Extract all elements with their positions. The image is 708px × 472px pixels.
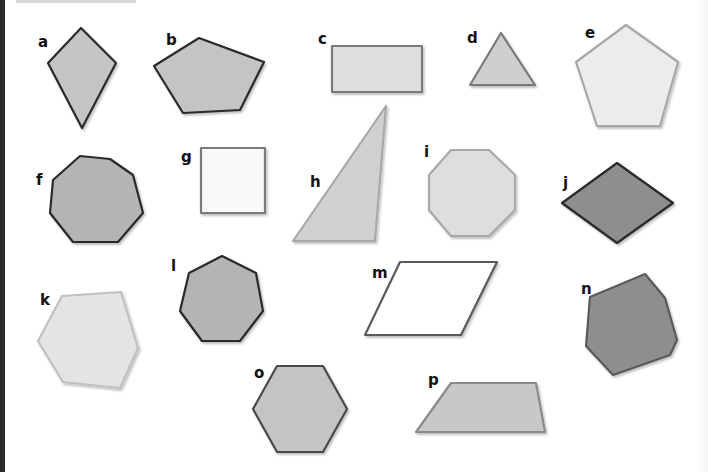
shapes-canvas: abcdefghijklmnop [0, 0, 708, 472]
trapezium-polygon [416, 383, 545, 432]
shape-d-triangle: d [467, 29, 535, 85]
shape-k-irregular-hexagon: k [38, 291, 138, 388]
shape-label: l [171, 257, 176, 275]
irregular-heptagon-polygon [50, 156, 143, 242]
shape-a-kite: a [38, 28, 116, 128]
irregular-pentagon-polygon [154, 38, 264, 113]
shape-n-irregular-heptagon: n [581, 274, 677, 375]
regular-hexagon-polygon [253, 366, 347, 452]
shape-c-rectangle: c [318, 30, 422, 92]
shape-j-rhombus: j [562, 163, 673, 243]
irregular-hexagon-polygon [38, 292, 138, 388]
rhombus-polygon [562, 163, 673, 243]
octagon-polygon [429, 150, 515, 236]
shape-label: d [467, 29, 478, 47]
shape-g-square: g [181, 148, 265, 213]
shape-label: h [310, 173, 321, 191]
rectangle-polygon [332, 46, 422, 92]
shape-label: n [581, 280, 592, 298]
shape-i-octagon: i [424, 143, 515, 236]
shape-label: a [38, 33, 48, 51]
shape-label: g [181, 148, 192, 166]
shape-label: b [166, 31, 177, 49]
shape-label: e [585, 24, 595, 42]
shape-label: p [428, 371, 439, 389]
shape-m-parallelogram: m [365, 262, 497, 335]
kite-polygon [48, 28, 116, 128]
shape-b-irregular-pentagon: b [154, 31, 264, 113]
shape-e-regular-pentagon: e [576, 24, 678, 126]
square-polygon [201, 148, 265, 213]
shape-f-irregular-heptagon: f [36, 156, 143, 242]
irregular-heptagon-polygon [586, 274, 677, 375]
shape-label: j [562, 174, 568, 192]
shape-label: i [424, 143, 429, 161]
shape-label: c [318, 30, 327, 48]
shape-label: m [372, 264, 388, 282]
regular-heptagon-polygon [180, 256, 263, 341]
right-triangle-polygon [293, 106, 386, 241]
shape-h-right-triangle: h [293, 106, 386, 241]
shape-label: k [40, 291, 51, 309]
triangle-polygon [470, 33, 535, 85]
shape-p-trapezium: p [416, 371, 545, 432]
shape-o-regular-hexagon: o [253, 364, 347, 452]
shape-layer: abcdefghijklmnop [36, 24, 678, 452]
shape-label: o [254, 364, 264, 382]
shape-l-regular-heptagon: l [171, 256, 263, 341]
shape-label: f [36, 171, 43, 189]
